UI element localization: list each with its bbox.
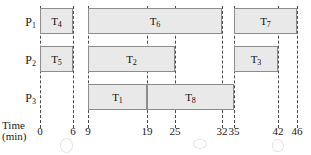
gantt-chart: P1 P2 P3 T4T6T7T5T2T3T1T8 06919253235424… (0, 0, 311, 155)
row-label-p3-sub: 3 (32, 97, 36, 106)
axis-caption-line2: (min) (2, 131, 38, 142)
task-bar-label-T1: T1 (112, 92, 123, 103)
task-bar-label-T2: T2 (126, 54, 137, 65)
task-bar-T6[interactable]: T6 (88, 8, 222, 34)
row-label-p1-text: P (25, 15, 32, 29)
task-bar-sub-T6: 6 (156, 20, 160, 29)
row-label-p1-sub: 1 (32, 21, 36, 30)
task-bar-T4[interactable]: T4 (40, 8, 73, 34)
task-bar-T2[interactable]: T2 (88, 46, 175, 72)
tick-label-25: 25 (170, 126, 181, 137)
gridline-6 (73, 6, 74, 128)
task-bar-label-T5: T5 (51, 54, 62, 65)
tick-label-19: 19 (142, 126, 153, 137)
tick-label-35: 35 (229, 126, 240, 137)
row-label-p2-sub: 2 (32, 59, 36, 68)
task-bar-sub-T1: 1 (119, 96, 123, 105)
scan-smudge (60, 138, 73, 153)
task-bar-sub-T2: 2 (133, 58, 137, 67)
task-bar-label-T4: T4 (51, 16, 62, 27)
row-label-p3: P3 (4, 92, 36, 104)
tick-label-46: 46 (292, 126, 303, 137)
tick-label-9: 9 (85, 126, 91, 137)
tick-label-6: 6 (70, 126, 76, 137)
task-bar-T3[interactable]: T3 (234, 46, 278, 72)
tick-label-32: 32 (217, 126, 228, 137)
task-bar-label-T7: T7 (260, 16, 271, 27)
task-bar-label-T6: T6 (150, 16, 161, 27)
row-label-p1: P1 (4, 16, 36, 28)
task-bar-T7[interactable]: T7 (234, 8, 297, 34)
row-label-p2-text: P (25, 53, 32, 67)
task-bar-T8[interactable]: T8 (147, 84, 234, 110)
task-bar-label-T3: T3 (251, 54, 262, 65)
scan-smudge (193, 139, 207, 149)
row-label-p2: P2 (4, 54, 36, 66)
axis-caption: Time (min) (2, 120, 38, 142)
task-bar-sub-T8: 8 (192, 96, 196, 105)
task-bar-label-T8: T8 (185, 92, 196, 103)
task-bar-sub-T3: 3 (257, 58, 261, 67)
task-bar-sub-T5: 5 (58, 58, 62, 67)
scan-smudge (272, 139, 284, 152)
tick-label-42: 42 (273, 126, 284, 137)
task-bar-sub-T4: 4 (58, 20, 62, 29)
row-label-p3-text: P (25, 91, 32, 105)
gridline-46 (297, 6, 298, 128)
tick-label-0: 0 (37, 126, 43, 137)
task-bar-T5[interactable]: T5 (40, 46, 73, 72)
task-bar-sub-T7: 7 (267, 20, 271, 29)
task-bar-T1[interactable]: T1 (88, 84, 147, 110)
